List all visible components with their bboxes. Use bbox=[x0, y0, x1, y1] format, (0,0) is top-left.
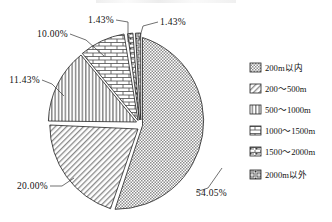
leader-line-143-b bbox=[139, 22, 158, 40]
legend-label-5: 2000m以外 bbox=[265, 169, 307, 180]
legend-item-1500-2000m[interactable]: 1500～2000m bbox=[250, 147, 315, 157]
legend-item-200m-within[interactable]: 200m以内 bbox=[250, 62, 303, 73]
legend-label-0: 200m以内 bbox=[265, 62, 303, 73]
legend-swatch-small-brick-block bbox=[250, 147, 261, 156]
legend-item-200-500m[interactable]: 200～500m bbox=[250, 84, 307, 94]
legend-swatch-nested-square bbox=[250, 170, 261, 179]
pie-label-143-a: 1.43% bbox=[88, 15, 114, 25]
pie-slices bbox=[48, 33, 203, 209]
pie-chart-canvas: 54.05% 20.00% 11.43% 10.00% 1.43% 1.43% … bbox=[0, 0, 332, 222]
legend-swatch-vertical-stripes bbox=[250, 105, 261, 114]
legend-item-2000m-beyond[interactable]: 2000m以外 bbox=[250, 169, 307, 180]
pie-label-20: 20.00% bbox=[17, 181, 48, 191]
legend-label-4: 1500～2000m bbox=[265, 147, 315, 157]
legend-label-3: 1000～1500m bbox=[265, 126, 315, 136]
pie-label-10: 10.00% bbox=[37, 29, 68, 39]
legend-item-1000-1500m[interactable]: 1000～1500m bbox=[250, 126, 315, 136]
legend: 200m以内 200～500m 500～1000m 1000～1500m 150… bbox=[250, 62, 315, 180]
pie-label-11: 11.43% bbox=[9, 75, 40, 85]
legend-label-1: 200～500m bbox=[265, 84, 307, 94]
pie-label-143-b: 1.43% bbox=[160, 17, 186, 27]
pie-chart-figure: 54.05% 20.00% 11.43% 10.00% 1.43% 1.43% … bbox=[0, 0, 332, 222]
legend-swatch-dots-grid bbox=[250, 63, 261, 72]
pie-label-54: 54.05% bbox=[196, 188, 227, 198]
legend-swatch-diagonal-hatch bbox=[250, 84, 261, 93]
legend-label-2: 500～1000m bbox=[265, 105, 311, 115]
legend-item-500-1000m[interactable]: 500～1000m bbox=[250, 105, 311, 115]
legend-swatch-brick bbox=[250, 126, 261, 135]
